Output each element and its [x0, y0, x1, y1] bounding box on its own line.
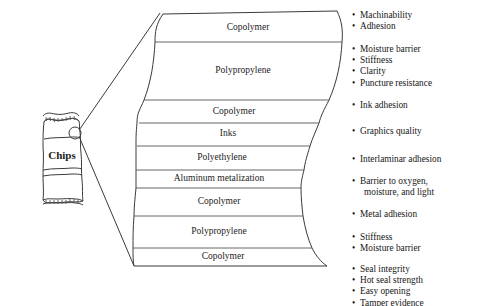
layer-label-polyethylene: Polyethylene [197, 152, 247, 162]
layer-label-copolymer-2: Copolymer [213, 106, 257, 116]
property-item: Stiffness [352, 55, 479, 66]
layer-label-aluminum-metalization: Aluminum metalization [174, 173, 265, 183]
property-item: Barrier to oxygen, [352, 176, 479, 187]
property-item: Tamper evidence [352, 298, 479, 306]
property-item: Metal adhesion [352, 209, 479, 220]
property-group-8: Seal integrity Hot seal strength Easy op… [352, 264, 479, 306]
property-group-6: Metal adhesion [352, 209, 479, 220]
property-item: Interlaminar adhesion [352, 154, 479, 165]
layer-label-copolymer-4: Copolymer [202, 251, 246, 261]
property-item: Graphics quality [352, 126, 479, 137]
property-group-4: Interlaminar adhesion [352, 154, 479, 165]
property-group-1: Moisture barrier Stiffness Clarity Punct… [352, 44, 479, 89]
property-item: Hot seal strength [352, 275, 479, 286]
property-item: Easy opening [352, 286, 479, 297]
property-item: Moisture barrier [352, 44, 479, 55]
property-group-3: Graphics quality [352, 126, 479, 137]
property-item: Stiffness [352, 232, 479, 243]
property-item: Machinability [352, 10, 479, 21]
layer-label-polypropylene-2: Polypropylene [191, 226, 246, 236]
property-item: Ink adhesion [352, 100, 479, 111]
film-stack: Copolymer Polypropylene Copolymer Inks P… [133, 11, 342, 266]
chips-bag-illustration: Chips [43, 113, 83, 205]
callout-line-lower [80, 138, 135, 267]
layer-label-copolymer-3: Copolymer [198, 196, 242, 206]
bag-top-seal-outer [43, 113, 79, 116]
property-group-2: Ink adhesion [352, 100, 479, 111]
property-item: Adhesion [352, 21, 479, 32]
property-group-5: Barrier to oxygen, moisture, and light [352, 176, 479, 198]
property-group-0: Machinability Adhesion [352, 10, 479, 32]
layer-label-polypropylene-1: Polypropylene [215, 65, 270, 75]
bag-body [43, 118, 83, 203]
property-item: Clarity [352, 66, 479, 77]
property-group-7: Stiffness Moisture barrier [352, 232, 479, 254]
bag-product-label: Chips [48, 149, 76, 161]
layer-label-copolymer-1: Copolymer [227, 22, 271, 32]
property-item: Moisture barrier [352, 243, 479, 254]
bag-bottom-seal-outer [43, 203, 83, 205]
property-list: Machinability Adhesion Moisture barrier … [352, 0, 479, 306]
property-item-continuation: moisture, and light [352, 187, 479, 198]
layer-label-inks: Inks [220, 128, 237, 138]
property-item: Seal integrity [352, 264, 479, 275]
property-item: Puncture resistance [352, 78, 479, 89]
figure-canvas: Chips [0, 0, 479, 306]
